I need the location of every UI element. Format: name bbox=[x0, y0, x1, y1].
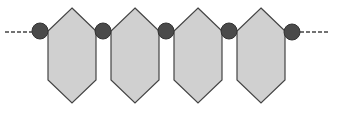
chain-diagram bbox=[0, 0, 340, 113]
node-2 bbox=[95, 23, 111, 39]
node-4 bbox=[221, 23, 237, 39]
hexagon-4 bbox=[237, 8, 285, 103]
node-1 bbox=[32, 23, 48, 39]
hexagon-2 bbox=[111, 8, 159, 103]
node-3 bbox=[158, 23, 174, 39]
hexagon-1 bbox=[48, 8, 96, 103]
node-5 bbox=[284, 24, 300, 40]
hexagon-3 bbox=[174, 8, 222, 103]
